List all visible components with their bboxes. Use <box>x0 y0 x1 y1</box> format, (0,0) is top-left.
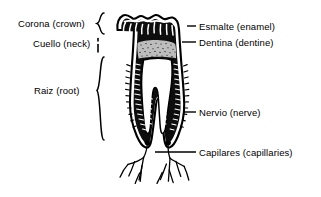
label-raiz: Raiz (root) <box>34 86 79 96</box>
pulp-chamber-stipple <box>137 40 176 59</box>
label-nervio: Nervio (nerve) <box>199 108 261 118</box>
label-cuello: Cuello (neck) <box>33 39 90 49</box>
label-corona: Corona (crown) <box>18 19 85 29</box>
nerve-capillary-fibers <box>120 145 189 183</box>
tooth-illustration <box>117 15 189 183</box>
tooth-anatomy-diagram: Corona (crown) Cuello (neck) Raiz (root)… <box>0 0 321 197</box>
corona-brace <box>97 13 104 34</box>
root-apex-collar <box>144 141 170 146</box>
label-esmalte: Esmalte (enamel) <box>199 22 275 32</box>
label-capilares: Capilares (capillaries) <box>199 148 293 158</box>
raiz-brace <box>97 57 104 140</box>
label-dentina: Dentina (dentine) <box>199 38 274 48</box>
